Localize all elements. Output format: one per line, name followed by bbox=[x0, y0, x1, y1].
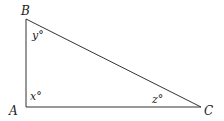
vertex-label-a: A bbox=[8, 104, 18, 118]
angle-label-x: x° bbox=[30, 90, 42, 103]
vertex-label-b: B bbox=[20, 4, 30, 18]
vertex-label-c: C bbox=[204, 104, 213, 118]
angle-label-z: z° bbox=[151, 93, 163, 106]
triangle-abc bbox=[26, 19, 201, 107]
angle-label-y: y° bbox=[31, 29, 44, 42]
triangle-diagram: B A C y° x° z° bbox=[0, 0, 224, 121]
